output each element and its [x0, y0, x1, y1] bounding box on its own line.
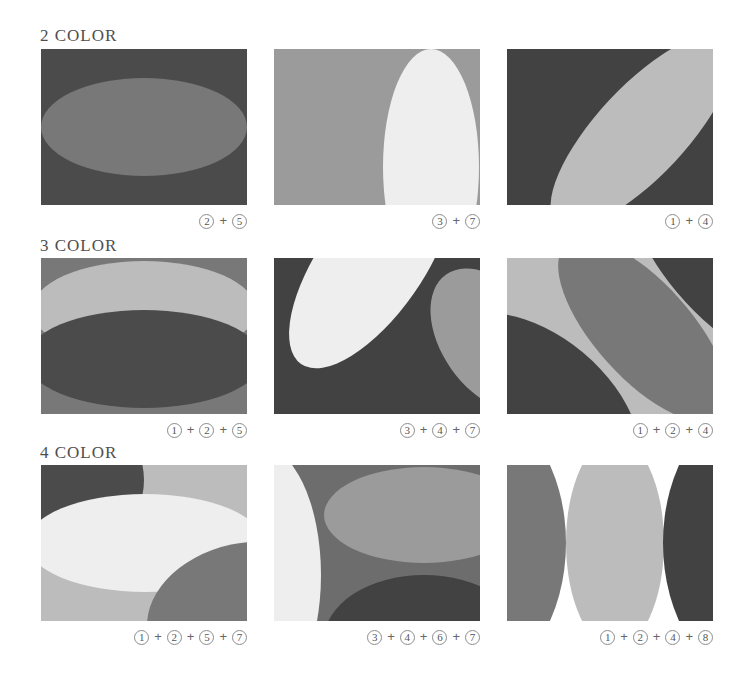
- combination-label: 1+2+4+8: [507, 628, 713, 644]
- combination-label: 1+2+5: [41, 421, 247, 437]
- combination-label: 1+2+4: [507, 421, 713, 437]
- color-combination-illustration: [41, 49, 247, 205]
- color-combination-illustration: [274, 49, 480, 205]
- section-title-4-color: 4 COLOR: [40, 443, 117, 463]
- swatch-panel: [41, 465, 247, 621]
- swatch-ellipse: [663, 465, 713, 621]
- plus-sign: +: [420, 422, 428, 438]
- circled-number: 4: [698, 214, 713, 229]
- circled-number: 4: [665, 630, 680, 645]
- plus-sign: +: [219, 422, 227, 438]
- circled-number: 4: [400, 630, 415, 645]
- circled-number: 1: [600, 630, 615, 645]
- circled-number: 1: [167, 423, 182, 438]
- circled-number: 2: [199, 423, 214, 438]
- plus-sign: +: [387, 629, 395, 645]
- plus-sign: +: [219, 213, 227, 229]
- plus-sign: +: [685, 422, 693, 438]
- plus-sign: +: [452, 422, 460, 438]
- circled-number: 5: [232, 214, 247, 229]
- circled-number: 7: [232, 630, 247, 645]
- combination-label: 3+4+6+7: [274, 628, 480, 644]
- plus-sign: +: [452, 213, 460, 229]
- plus-sign: +: [420, 629, 428, 645]
- swatch-ellipse: [41, 78, 247, 176]
- circled-number: 1: [633, 423, 648, 438]
- plus-sign: +: [653, 629, 661, 645]
- plus-sign: +: [685, 629, 693, 645]
- swatch-panel: [274, 465, 480, 621]
- swatch-ellipse: [566, 465, 664, 621]
- combination-label: 1+4: [507, 212, 713, 228]
- circled-number: 7: [465, 423, 480, 438]
- color-combination-illustration: [507, 258, 713, 414]
- circled-number: 3: [400, 423, 415, 438]
- circled-number: 2: [199, 214, 214, 229]
- combination-label: 1+2+5+7: [41, 628, 247, 644]
- swatch-panel: [507, 49, 713, 205]
- swatch-ellipse: [41, 310, 247, 408]
- combination-label: 2+5: [41, 212, 247, 228]
- circled-number: 2: [167, 630, 182, 645]
- plus-sign: +: [620, 629, 628, 645]
- swatch-panel: [507, 465, 713, 621]
- color-combination-illustration: [274, 258, 480, 414]
- section-title-2-color: 2 COLOR: [40, 26, 117, 46]
- circled-number: 3: [367, 630, 382, 645]
- circled-number: 6: [432, 630, 447, 645]
- plus-sign: +: [219, 629, 227, 645]
- circled-number: 1: [134, 630, 149, 645]
- color-combination-illustration: [507, 49, 713, 205]
- combination-label: 3+4+7: [274, 421, 480, 437]
- circled-number: 5: [232, 423, 247, 438]
- color-combination-illustration: [507, 465, 713, 621]
- circled-number: 8: [698, 630, 713, 645]
- plus-sign: +: [154, 629, 162, 645]
- circled-number: 4: [698, 423, 713, 438]
- swatch-panel: [274, 49, 480, 205]
- swatch-ellipse: [507, 465, 566, 621]
- swatch-panel: [507, 258, 713, 414]
- combination-label: 3+7: [274, 212, 480, 228]
- circled-number: 1: [665, 214, 680, 229]
- plus-sign: +: [452, 629, 460, 645]
- plus-sign: +: [685, 213, 693, 229]
- circled-number: 3: [432, 214, 447, 229]
- plus-sign: +: [187, 629, 195, 645]
- color-combination-illustration: [274, 465, 480, 621]
- circled-number: 2: [665, 423, 680, 438]
- circled-number: 7: [465, 214, 480, 229]
- section-title-3-color: 3 COLOR: [40, 236, 117, 256]
- color-combination-illustration: [41, 258, 247, 414]
- circled-number: 7: [465, 630, 480, 645]
- color-combination-illustration: [41, 465, 247, 621]
- swatch-panel: [274, 258, 480, 414]
- plus-sign: +: [187, 422, 195, 438]
- circled-number: 4: [432, 423, 447, 438]
- circled-number: 5: [199, 630, 214, 645]
- circled-number: 2: [633, 630, 648, 645]
- swatch-panel: [41, 49, 247, 205]
- plus-sign: +: [653, 422, 661, 438]
- swatch-panel: [41, 258, 247, 414]
